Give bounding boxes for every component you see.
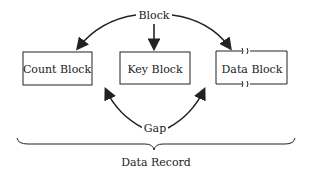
- count-block-label: Count Block: [21, 63, 93, 76]
- gap-arrow-right: [168, 90, 204, 128]
- data-record-diagram: Block Count Block Key Block Data Block G…: [0, 0, 310, 174]
- gap-arrow-left: [106, 90, 143, 128]
- data-block-label: Data Block: [220, 63, 285, 76]
- arrow-to-count: [78, 15, 136, 48]
- block-label: Block: [136, 9, 171, 22]
- gap-label: Gap: [142, 122, 168, 135]
- diagram-lines: [0, 0, 310, 174]
- arrow-to-data: [172, 15, 230, 48]
- data-record-label: Data Record: [119, 156, 193, 169]
- key-block-label: Key Block: [125, 63, 184, 76]
- brace: [17, 138, 295, 150]
